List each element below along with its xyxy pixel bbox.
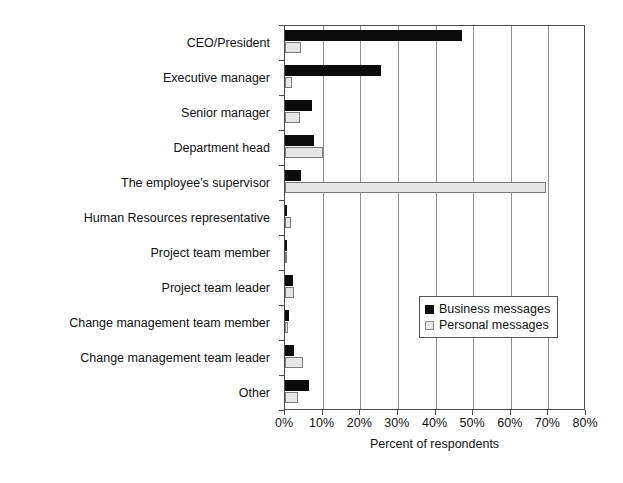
y-axis-label: Department head (0, 141, 276, 155)
bar-row (285, 131, 584, 166)
y-axis-label: Project team leader (0, 281, 276, 295)
x-axis-tick-labels: 0%10%20%30%40%50%60%70%80% (284, 415, 585, 433)
y-axis-label: Change management team member (0, 316, 276, 330)
y-axis-label: Project team member (0, 246, 276, 260)
bar-personal (285, 77, 292, 88)
y-tick-mark (279, 200, 284, 201)
bar-business (285, 135, 314, 146)
bar-business (285, 310, 289, 321)
y-axis-label: Change management team leader (0, 351, 276, 365)
bar-row (285, 236, 584, 271)
bar-row (285, 26, 584, 61)
chart-legend: Business messages Personal messages (419, 296, 558, 338)
x-tick-label: 80% (572, 415, 597, 431)
bar-personal (285, 392, 298, 403)
bar-personal (285, 287, 294, 298)
x-tick-label: 30% (384, 415, 409, 431)
bar-personal (285, 252, 287, 263)
x-tick-label: 70% (535, 415, 560, 431)
legend-item-personal: Personal messages (425, 317, 550, 333)
y-tick-mark (279, 95, 284, 96)
bar-business (285, 65, 381, 76)
plot-area (284, 25, 585, 410)
x-tick-label: 0% (275, 415, 293, 431)
bar-personal (285, 112, 300, 123)
y-tick-mark (279, 375, 284, 376)
x-tick-label: 20% (347, 415, 372, 431)
y-axis-label: The employee's supervisor (0, 176, 276, 190)
bar-personal (285, 182, 546, 193)
bar-chart: CEO/President Executive manager Senior m… (0, 0, 623, 483)
bar-personal (285, 42, 301, 53)
x-tick-label: 60% (497, 415, 522, 431)
y-tick-mark (279, 305, 284, 306)
y-axis-labels: CEO/President Executive manager Senior m… (0, 25, 276, 410)
y-tick-mark (279, 270, 284, 271)
y-axis-label: Human Resources representative (0, 211, 276, 225)
bar-business (285, 170, 301, 181)
x-tick-label: 50% (460, 415, 485, 431)
filled-black-square-icon (425, 305, 434, 314)
bar-row (285, 376, 584, 411)
bar-business (285, 205, 287, 216)
bar-business (285, 275, 293, 286)
legend-label: Business messages (439, 302, 550, 316)
x-tick-label: 10% (309, 415, 334, 431)
legend-label: Personal messages (439, 318, 549, 332)
y-axis-label: Executive manager (0, 71, 276, 85)
bar-personal (285, 322, 288, 333)
bar-row (285, 166, 584, 201)
x-tick-label: 40% (422, 415, 447, 431)
bar-personal (285, 147, 323, 158)
legend-item-business: Business messages (425, 301, 550, 317)
bar-row (285, 96, 584, 131)
bar-row (285, 201, 584, 236)
y-tick-mark (279, 165, 284, 166)
bar-business (285, 30, 462, 41)
y-tick-mark (279, 340, 284, 341)
bar-business (285, 240, 287, 251)
bar-row (285, 341, 584, 376)
x-axis-title: Percent of respondents (284, 437, 585, 451)
bar-personal (285, 217, 291, 228)
y-tick-mark (279, 235, 284, 236)
y-tick-mark (279, 410, 284, 411)
y-tick-mark (279, 130, 284, 131)
y-tick-mark (279, 60, 284, 61)
y-axis-label: CEO/President (0, 36, 276, 50)
y-tick-mark (279, 25, 284, 26)
outlined-light-square-icon (425, 321, 434, 330)
bar-business (285, 345, 294, 356)
y-axis-label: Other (0, 386, 276, 400)
y-axis-label: Senior manager (0, 106, 276, 120)
bar-personal (285, 357, 303, 368)
bar-business (285, 380, 309, 391)
bar-business (285, 100, 312, 111)
bar-row (285, 61, 584, 96)
